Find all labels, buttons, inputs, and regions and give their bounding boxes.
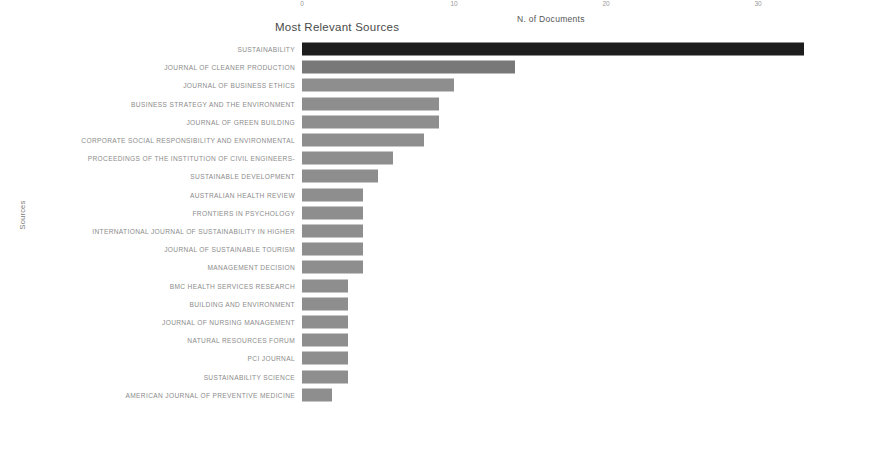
bar-row: CORPORATE SOCIAL RESPONSIBILITY AND ENVI… — [0, 131, 879, 149]
y-tick-label: FRONTIERS IN PSYCHOLOGY — [192, 209, 295, 216]
bar — [302, 334, 348, 347]
bar — [302, 261, 363, 274]
bar — [302, 152, 393, 165]
y-tick-label: NATURAL RESOURCES FORUM — [187, 337, 295, 344]
plot-area: SUSTAINABILITYJOURNAL OF CLEANER PRODUCT… — [0, 40, 879, 410]
y-tick-label: JOURNAL OF BUSINESS ETHICS — [183, 82, 295, 89]
bar-row: SUSTAINABILITY SCIENCE — [0, 368, 879, 386]
y-tick-label: BMC HEALTH SERVICES RESEARCH — [170, 282, 295, 289]
bar-row: PROCEEDINGS OF THE INSTITUTION OF CIVIL … — [0, 149, 879, 167]
bar-row: JOURNAL OF BUSINESS ETHICS — [0, 76, 879, 94]
bar-row: JOURNAL OF NURSING MANAGEMENT — [0, 313, 879, 331]
bar-row: NATURAL RESOURCES FORUM — [0, 331, 879, 349]
bar — [302, 243, 363, 256]
bar — [302, 206, 363, 219]
y-tick-label: SUSTAINABILITY SCIENCE — [204, 373, 295, 380]
bar — [302, 170, 378, 183]
bar — [302, 370, 348, 383]
y-tick-label: JOURNAL OF NURSING MANAGEMENT — [162, 319, 295, 326]
bar-row: INTERNATIONAL JOURNAL OF SUSTAINABILITY … — [0, 222, 879, 240]
x-tick-label: 0 — [300, 0, 304, 7]
bar-row: BMC HEALTH SERVICES RESEARCH — [0, 277, 879, 295]
bar-row: SUSTAINABLE DEVELOPMENT — [0, 167, 879, 185]
bar-row: BUILDING AND ENVIRONMENT — [0, 295, 879, 313]
bar — [302, 134, 424, 147]
y-tick-label: MANAGEMENT DECISION — [208, 264, 296, 271]
x-tick-label: 20 — [602, 0, 609, 7]
y-tick-label: JOURNAL OF SUSTAINABLE TOURISM — [164, 246, 295, 253]
bar-row: PCI JOURNAL — [0, 349, 879, 367]
bar-row: FRONTIERS IN PSYCHOLOGY — [0, 204, 879, 222]
x-tick-label: 10 — [450, 0, 457, 7]
x-axis: N. of Documents 0102030 — [0, 0, 879, 49]
y-tick-label: AUSTRALIAN HEALTH REVIEW — [190, 191, 295, 198]
bar-row: MANAGEMENT DECISION — [0, 258, 879, 276]
bar — [302, 61, 515, 74]
bar-row: AMERICAN JOURNAL OF PREVENTIVE MEDICINE — [0, 386, 879, 404]
chart-page: Most Relevant Sources Sources SUSTAINABI… — [0, 0, 879, 459]
bar-row: JOURNAL OF GREEN BUILDING — [0, 113, 879, 131]
bar — [302, 79, 454, 92]
bar-row: BUSINESS STRATEGY AND THE ENVIRONMENT — [0, 95, 879, 113]
y-tick-label: SUSTAINABLE DEVELOPMENT — [190, 173, 295, 180]
y-tick-label: PCI JOURNAL — [248, 355, 295, 362]
x-tick-label: 30 — [754, 0, 761, 7]
bar — [302, 225, 363, 238]
bar — [302, 188, 363, 201]
bar — [302, 279, 348, 292]
y-tick-label: CORPORATE SOCIAL RESPONSIBILITY AND ENVI… — [81, 137, 295, 144]
x-axis-title: N. of Documents — [517, 14, 585, 24]
bar-row: JOURNAL OF SUSTAINABLE TOURISM — [0, 240, 879, 258]
y-tick-label: BUILDING AND ENVIRONMENT — [190, 300, 296, 307]
y-tick-label: JOURNAL OF GREEN BUILDING — [186, 118, 295, 125]
y-tick-label: AMERICAN JOURNAL OF PREVENTIVE MEDICINE — [126, 391, 295, 398]
y-tick-label: JOURNAL OF CLEANER PRODUCTION — [164, 64, 295, 71]
bar — [302, 297, 348, 310]
y-tick-label: BUSINESS STRATEGY AND THE ENVIRONMENT — [131, 100, 295, 107]
bar — [302, 316, 348, 329]
bar-row: JOURNAL OF CLEANER PRODUCTION — [0, 58, 879, 76]
bar — [302, 97, 439, 110]
y-tick-label: PROCEEDINGS OF THE INSTITUTION OF CIVIL … — [88, 155, 295, 162]
y-tick-label: INTERNATIONAL JOURNAL OF SUSTAINABILITY … — [92, 228, 295, 235]
bar — [302, 352, 348, 365]
bar — [302, 388, 332, 401]
bar-row: AUSTRALIAN HEALTH REVIEW — [0, 186, 879, 204]
bar — [302, 115, 439, 128]
